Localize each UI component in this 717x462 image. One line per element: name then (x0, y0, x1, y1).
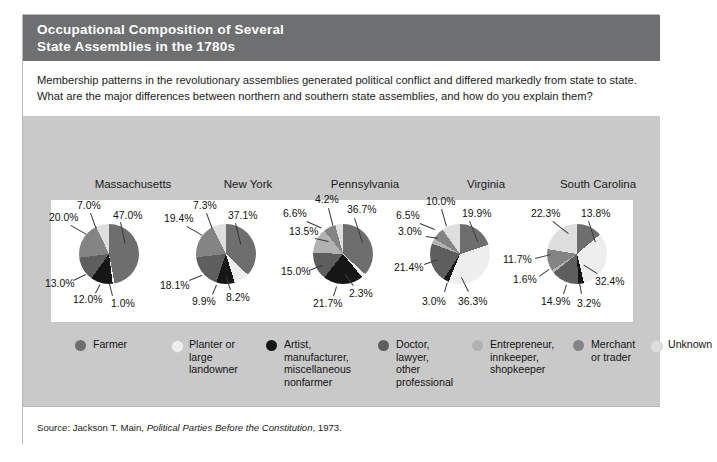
source-footer: Source: Jackson T. Main, Political Parti… (23, 407, 660, 444)
legend-label: Unknown (668, 338, 712, 351)
leader-line (73, 274, 86, 281)
legend-label: Merchant or trader (591, 338, 635, 363)
state-label-south-carolina: South Carolina (523, 178, 673, 190)
pie-slice-label: 9.9% (192, 296, 216, 307)
pie-slice-label: 6.6% (283, 208, 307, 219)
leader-line (206, 213, 212, 228)
pie-slice-label: 3.2% (577, 298, 601, 309)
pie-slice-label: 19.4% (164, 213, 193, 224)
pie-slice-label: 14.9% (541, 296, 570, 307)
leader-line (189, 275, 202, 281)
legend-label: Artist, manufacturer, miscellaneous nonf… (284, 338, 351, 388)
pie-slice-label: 37.1% (228, 210, 257, 221)
pie-slice-label: 3.0% (398, 226, 422, 237)
legend-label: Farmer (93, 338, 127, 351)
pie-slice-label: 1.0% (111, 298, 135, 309)
figure-intro: Membership patterns in the revolutionary… (23, 61, 660, 116)
pie-slice-label: 22.3% (531, 208, 560, 219)
leader-line (441, 209, 447, 227)
pie-slice-label: 3.0% (422, 296, 446, 307)
legend-label: Planter or large landowner (189, 338, 238, 376)
legend-swatch-icon (472, 340, 483, 351)
pie-disc (313, 224, 373, 284)
pie-slice-label: 6.5% (396, 210, 420, 221)
leader-line (563, 284, 567, 294)
chart-backdrop: MassachusettsNew YorkPennsylvaniaVirgini… (23, 116, 660, 406)
pie-chart-massachusetts: 47.0%7.0%20.0%13.0%12.0%1.0% (51, 200, 167, 322)
figure-title-bar: Occupational Composition of Several Stat… (23, 15, 660, 61)
legend-swatch-icon (573, 340, 584, 351)
chart-legend: FarmerPlanter or large landownerArtist, … (23, 338, 660, 400)
pie-slice-label: 11.7% (503, 254, 532, 265)
legend-label: Entrepreneur, innkeeper, shopkeeper (490, 338, 554, 376)
leader-line (420, 223, 435, 230)
pie-slice-label: 21.4% (394, 262, 423, 273)
figure-container: Occupational Composition of Several Stat… (22, 14, 659, 444)
pie-slice-label: 19.9% (462, 208, 491, 219)
leader-line (187, 226, 203, 236)
figure-intro-line-2: What are the major differences between n… (37, 88, 642, 104)
pie-slice-label: 21.7% (313, 298, 342, 309)
pie-chart-new-york: 37.1%7.3%19.4%18.1%9.9%8.2% (168, 200, 284, 322)
leader-line (328, 208, 333, 226)
state-label-pennsylvania: Pennsylvania (295, 178, 435, 190)
pie-slice-label: 36.3% (458, 296, 487, 307)
pie-slice-label: 1.6% (513, 274, 537, 285)
leader-line (71, 225, 87, 235)
pie-slice-label: 7.0% (77, 200, 101, 211)
source-title: Political Parties Before the Constitutio… (147, 422, 313, 433)
pie-chart-south-carolina: 13.8%22.3%11.7%1.6%14.9%3.2%32.4% (519, 200, 635, 322)
leader-line (333, 286, 337, 296)
leader-line (95, 284, 101, 293)
pie-slice-label: 12.0% (73, 294, 102, 305)
pie-slice-label: 4.2% (315, 194, 339, 205)
legend-swatch-icon (378, 340, 389, 351)
pie-slice-label: 13.0% (45, 278, 74, 289)
leader-line (212, 285, 217, 295)
pie-slice-label: 13.5% (289, 226, 318, 237)
pie-slice-label: 10.0% (426, 196, 455, 207)
legend-swatch-icon (266, 340, 277, 351)
pie-chart-virginia: 19.9%10.0%6.5%3.0%21.4%3.0%36.3% (402, 200, 518, 322)
legend-swatch-icon (75, 340, 86, 351)
state-label-massachusetts: Massachusetts (63, 178, 203, 190)
pie-slice-label: 8.2% (226, 292, 250, 303)
pie-disc (79, 224, 139, 284)
pie-slice-label: 47.0% (113, 210, 142, 221)
pie-slice-label: 15.0% (281, 266, 310, 277)
leader-line (90, 213, 96, 228)
pie-slice-label: 2.3% (349, 288, 373, 299)
legend-label: Doctor, lawyer, other professional (396, 338, 453, 388)
pie-slice-label: 13.8% (581, 208, 610, 219)
pie-slice-label: 20.0% (49, 212, 78, 223)
pie-slice-label: 18.1% (160, 280, 189, 291)
pie-chart-panel: 47.0%7.0%20.0%13.0%12.0%1.0%37.1%7.3%19.… (51, 200, 633, 322)
pie-slice-label: 36.7% (347, 204, 376, 215)
pie-slice-label: 7.3% (193, 200, 217, 211)
legend-swatch-icon (171, 340, 184, 353)
state-label-new-york: New York (183, 178, 313, 190)
leader-line (444, 282, 448, 292)
state-label-row: MassachusettsNew YorkPennsylvaniaVirgini… (23, 178, 660, 198)
pie-disc (430, 224, 490, 284)
pie-chart-pennsylvania: 36.7%4.2%6.6%13.5%15.0%21.7%2.3% (285, 200, 401, 322)
figure-title-line-1: Occupational Composition of Several (37, 22, 660, 39)
figure-title-line-2: State Assemblies in the 1780s (37, 39, 660, 56)
source-citation: Source: Jackson T. Main, Political Parti… (37, 422, 342, 433)
leader-line (539, 269, 549, 277)
pie-disc (547, 224, 607, 284)
pie-slice-label: 32.4% (595, 276, 624, 287)
pie-disc (196, 224, 256, 284)
leader-line (109, 283, 113, 296)
legend-swatch-icon (650, 340, 663, 353)
figure-intro-line-1: Membership patterns in the revolutionary… (37, 72, 642, 88)
